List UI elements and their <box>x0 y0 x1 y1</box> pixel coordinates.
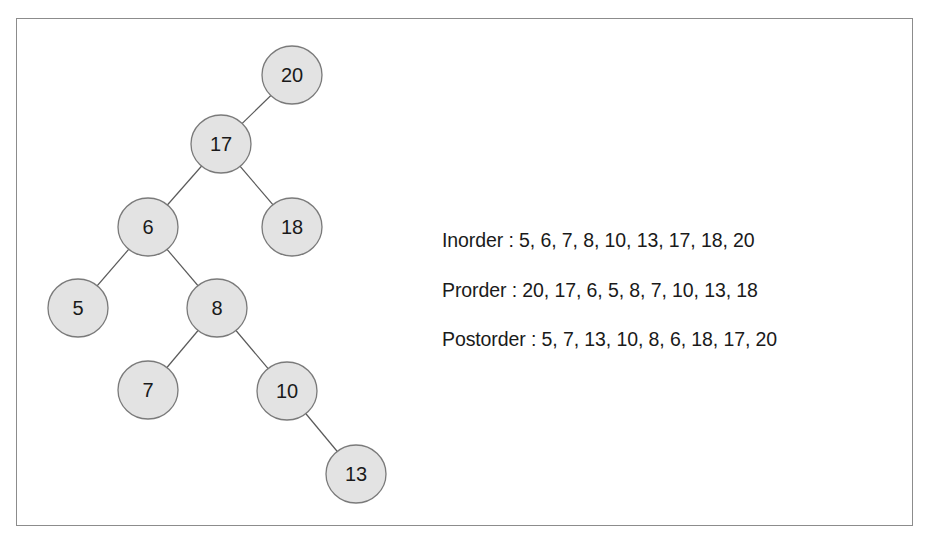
node-label: 18 <box>281 216 303 238</box>
tree-nodes: 20176185871013 <box>48 46 386 503</box>
node-label: 6 <box>142 216 153 238</box>
node-label: 20 <box>281 64 303 86</box>
tree-node-20: 20 <box>262 46 322 104</box>
node-label: 10 <box>276 380 298 402</box>
tree-node-5: 5 <box>48 279 108 337</box>
node-label: 5 <box>72 297 83 319</box>
tree-node-13: 13 <box>326 445 386 503</box>
tree-node-7: 7 <box>118 361 178 419</box>
tree-node-8: 8 <box>187 279 247 337</box>
tree-node-6: 6 <box>118 198 178 256</box>
node-label: 8 <box>211 297 222 319</box>
tree-node-10: 10 <box>257 362 317 420</box>
inorder-traversal: Inorder : 5, 6, 7, 8, 10, 13, 17, 18, 20 <box>442 228 777 278</box>
node-label: 13 <box>345 463 367 485</box>
tree-node-18: 18 <box>262 198 322 256</box>
node-label: 7 <box>142 379 153 401</box>
node-label: 17 <box>210 133 232 155</box>
postorder-traversal: Postorder : 5, 7, 13, 10, 8, 6, 18, 17, … <box>442 327 777 377</box>
preorder-traversal: Prorder : 20, 17, 6, 5, 8, 7, 10, 13, 18 <box>442 278 777 328</box>
traversal-list: Inorder : 5, 6, 7, 8, 10, 13, 17, 18, 20… <box>442 228 777 377</box>
tree-node-17: 17 <box>191 115 251 173</box>
